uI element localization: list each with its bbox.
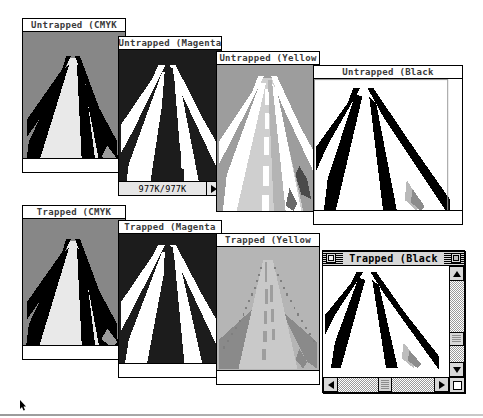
window-untrapped-yellow[interactable]: Untrapped (Yellow xyxy=(216,51,320,212)
window-title: Untrapped (Magenta xyxy=(119,39,221,48)
window-title: Untrapped (Yellow xyxy=(219,54,316,63)
channel-art-black-trapped xyxy=(323,266,449,377)
canvas-untrapped-black[interactable] xyxy=(314,79,462,224)
window-trapped-black[interactable]: Trapped (Black xyxy=(322,250,465,393)
window-gutter xyxy=(119,363,221,377)
window-trapped-magenta[interactable]: Trapped (Magenta xyxy=(118,220,222,378)
channel-art-cmyk xyxy=(23,32,125,172)
titlebar-untrapped-cmyk[interactable]: Untrapped (CMYK xyxy=(23,19,125,32)
channel-art-magenta xyxy=(119,50,221,195)
status-bar-untrapped-magenta[interactable]: 977K/977K xyxy=(119,181,221,195)
titlebar-untrapped-magenta[interactable]: Untrapped (Magenta xyxy=(119,37,221,50)
window-trapped-yellow[interactable]: Trapped (Yellow xyxy=(216,233,320,385)
canvas-untrapped-magenta[interactable]: 977K/977K xyxy=(119,50,221,195)
window-untrapped-magenta[interactable]: Untrapped (Magenta xyxy=(118,36,222,196)
horizontal-scroll-thumb[interactable] xyxy=(378,377,392,392)
window-untrapped-cmyk[interactable]: Untrapped (CMYK xyxy=(22,18,126,173)
window-gutter xyxy=(23,158,125,172)
window-title: Untrapped (CMYK xyxy=(31,21,117,30)
titlebar-untrapped-yellow[interactable]: Untrapped (Yellow xyxy=(217,52,319,65)
grow-box-icon[interactable] xyxy=(449,377,464,392)
arrow-cursor xyxy=(20,396,27,407)
canvas-untrapped-cmyk[interactable] xyxy=(23,32,125,172)
channel-art-yellow xyxy=(217,65,319,211)
titlebar-trapped-cmyk[interactable]: Trapped (CMYK xyxy=(23,206,125,219)
channel-art-cmyk-trapped xyxy=(23,219,125,359)
bottom-rule xyxy=(0,414,483,416)
window-gutter xyxy=(314,210,462,224)
canvas-trapped-yellow[interactable] xyxy=(217,247,319,384)
horizontal-scrollbar[interactable] xyxy=(323,377,449,392)
canvas-trapped-cmyk[interactable] xyxy=(23,219,125,359)
canvas-trapped-magenta[interactable] xyxy=(119,234,221,377)
channel-art-magenta-trapped xyxy=(119,234,221,377)
titlebar-trapped-black[interactable]: Trapped (Black xyxy=(323,251,464,266)
scroll-right-arrow-icon[interactable] xyxy=(434,377,449,392)
window-title: Trapped (CMYK xyxy=(37,208,111,217)
channel-art-yellow-trapped xyxy=(217,247,319,384)
window-untrapped-black[interactable]: Untrapped (Black xyxy=(313,65,463,225)
titlebar-untrapped-black[interactable]: Untrapped (Black xyxy=(314,66,462,79)
window-title: Trapped (Magenta xyxy=(124,223,216,232)
titlebar-trapped-magenta[interactable]: Trapped (Magenta xyxy=(119,221,221,234)
window-title: Trapped (Black xyxy=(343,253,444,264)
channel-art-black xyxy=(314,79,462,224)
window-trapped-cmyk[interactable]: Trapped (CMYK xyxy=(22,205,126,360)
canvas-untrapped-yellow[interactable] xyxy=(217,65,319,211)
scroll-up-arrow-icon[interactable] xyxy=(449,266,464,281)
scroll-down-arrow-icon[interactable] xyxy=(449,362,464,377)
screen-canvas: Untrapped (CMYK xyxy=(0,0,483,418)
scroll-left-arrow-icon[interactable] xyxy=(323,377,338,392)
window-title: Untrapped (Black xyxy=(342,68,434,77)
file-size-text: 977K/977K xyxy=(119,184,206,194)
vertical-scroll-thumb[interactable] xyxy=(449,332,464,346)
vertical-scrollbar[interactable] xyxy=(449,266,464,377)
window-title: Trapped (Yellow xyxy=(225,236,311,245)
zoom-box-icon[interactable] xyxy=(451,253,461,263)
window-gutter xyxy=(23,345,125,359)
canvas-trapped-black[interactable] xyxy=(323,266,464,392)
titlebar-trapped-yellow[interactable]: Trapped (Yellow xyxy=(217,234,319,247)
window-gutter xyxy=(217,370,319,384)
close-box-icon[interactable] xyxy=(326,253,336,263)
